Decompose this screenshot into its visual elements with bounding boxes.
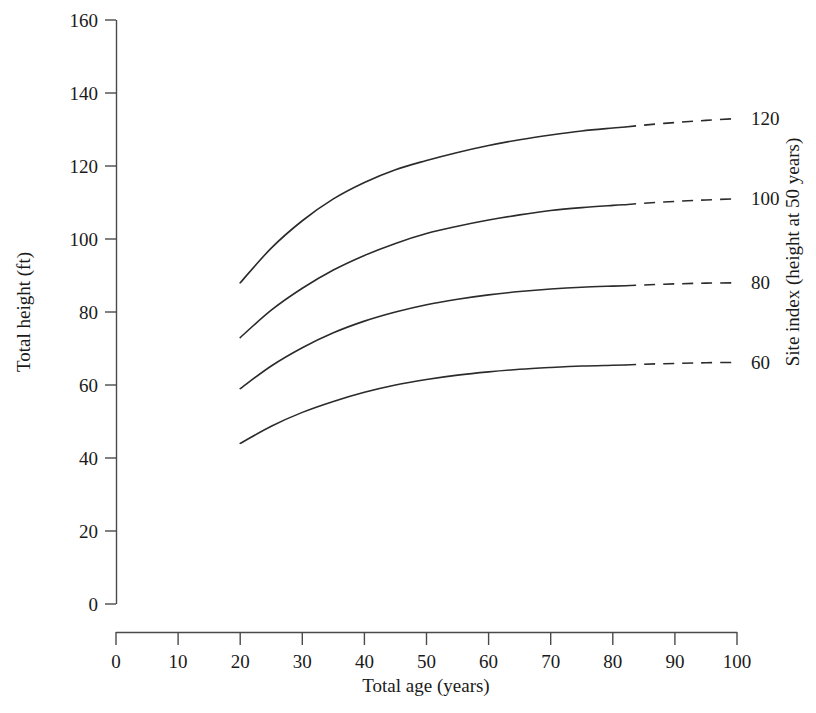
x-tick-label: 0 [111, 651, 121, 672]
y-tick-label: 20 [79, 521, 98, 542]
y-tick-label: 80 [79, 302, 98, 323]
curve-dashed-si-60 [625, 362, 737, 365]
y-tick-label: 140 [70, 83, 99, 104]
curve-labels-group: 1201008060 [751, 108, 780, 373]
curve-label-si-60: 60 [751, 352, 770, 373]
chart-figure: 020406080100120140160 Total height (ft) … [0, 0, 816, 713]
y-tick-label: 160 [70, 10, 99, 31]
y-tick-label: 40 [79, 448, 98, 469]
x-tick-label: 80 [603, 651, 622, 672]
x-tick-label: 100 [723, 651, 752, 672]
y-axis-tick-labels: 020406080100120140160 [70, 10, 99, 615]
x-tick-label: 90 [665, 651, 684, 672]
x-tick-label: 60 [479, 651, 498, 672]
y-tick-label: 100 [70, 229, 99, 250]
x-tick-label: 50 [417, 651, 436, 672]
curve-label-si-80: 80 [751, 272, 770, 293]
x-axis-title: Total age (years) [362, 675, 489, 697]
y-tick-label: 120 [70, 156, 99, 177]
x-tick-label: 10 [169, 651, 188, 672]
x-tick-label: 20 [231, 651, 250, 672]
x-axis: 0102030405060708090100 Total age (years) [111, 632, 751, 697]
x-tick-label: 30 [293, 651, 312, 672]
site-index-line-chart: 020406080100120140160 Total height (ft) … [0, 0, 816, 713]
y-tick-label: 0 [89, 594, 99, 615]
curve-solid-si-80 [240, 286, 625, 389]
curve-dashed-si-120 [625, 119, 737, 127]
x-tick-label: 70 [541, 651, 560, 672]
x-axis-ticks [116, 632, 737, 645]
y-axis: 020406080100120140160 Total height (ft) [13, 10, 117, 615]
curve-solid-si-120 [240, 127, 625, 283]
y-axis-title: Total height (ft) [13, 252, 35, 372]
curve-label-si-120: 120 [751, 108, 780, 129]
x-tick-label: 40 [355, 651, 374, 672]
curve-solid-si-60 [240, 365, 625, 443]
curve-dashed-si-80 [625, 283, 737, 286]
curve-dashed-si-100 [625, 199, 737, 205]
data-curves [240, 119, 737, 444]
x-axis-tick-labels: 0102030405060708090100 [111, 651, 751, 672]
right-axis-title: Site index (height at 50 years) [782, 138, 804, 366]
y-tick-label: 60 [79, 375, 98, 396]
y-axis-ticks [105, 20, 116, 604]
curve-label-si-100: 100 [751, 188, 780, 209]
